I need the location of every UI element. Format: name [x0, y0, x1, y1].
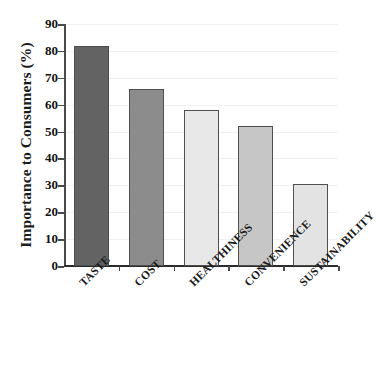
y-tick-mark: [58, 239, 64, 241]
y-tick-label: 40: [32, 151, 58, 164]
y-tick-mark: [58, 24, 64, 26]
y-tick-mark: [58, 266, 64, 268]
y-tick-mark: [58, 51, 64, 53]
bar: [129, 89, 164, 266]
y-tick-label: 0: [32, 259, 58, 272]
y-tick-mark: [58, 78, 64, 80]
y-tick-label: 10: [32, 232, 58, 245]
y-tick-mark: [58, 158, 64, 160]
y-tick-label: 30: [32, 178, 58, 191]
bar: [74, 46, 109, 266]
x-tick-mark: [119, 266, 121, 271]
y-tick-label: 60: [32, 98, 58, 111]
bar: [184, 110, 219, 266]
y-tick-mark: [58, 212, 64, 214]
y-tick-label: 70: [32, 71, 58, 84]
y-tick-label: 80: [32, 44, 58, 57]
y-tick-label: 50: [32, 125, 58, 138]
bar: [238, 126, 273, 266]
x-tick-mark: [174, 266, 176, 271]
x-tick-mark: [338, 266, 340, 271]
x-tick-mark: [228, 266, 230, 271]
y-tick-mark: [58, 132, 64, 134]
y-tick-label: 90: [32, 17, 58, 30]
x-tick-mark: [283, 266, 285, 271]
y-tick-label: 20: [32, 205, 58, 218]
y-tick-mark: [58, 105, 64, 107]
y-tick-mark: [58, 185, 64, 187]
y-axis-tick-labels: 0102030405060708090: [30, 0, 58, 374]
